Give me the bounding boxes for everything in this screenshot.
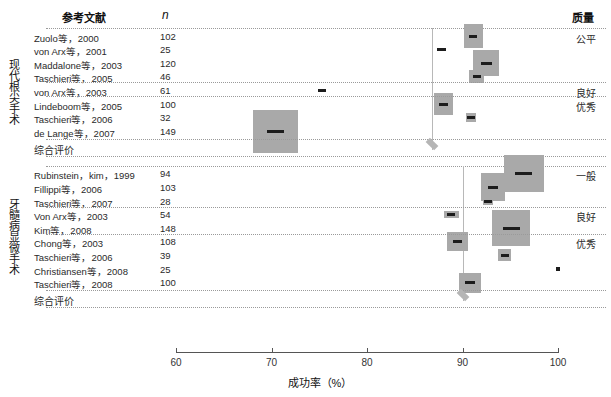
quality-label: 优秀 — [576, 99, 596, 114]
quality-label: 一般 — [576, 168, 596, 183]
effect-size-marker — [267, 130, 284, 133]
summary-label: 综合评价 — [34, 142, 74, 157]
study-label: Lindeboom等，2005 — [34, 99, 122, 113]
x-axis-tick-label: 60 — [158, 357, 194, 368]
group-bottom-rule — [46, 307, 606, 308]
study-sample-size: 25 — [160, 264, 171, 275]
forest-plot: 参考文献n质量Zuolo等，2000102公平von Arx等，200125Ma… — [0, 0, 611, 397]
column-header-quality: 质量 — [572, 9, 594, 25]
quality-label: 良好 — [576, 209, 596, 224]
effect-size-marker — [465, 281, 475, 284]
effect-size-marker — [484, 200, 492, 203]
study-label: Zuolo等，2000 — [34, 31, 99, 45]
x-axis-tick-label: 90 — [445, 357, 481, 368]
summary-rule — [46, 139, 606, 140]
section-rule — [46, 82, 606, 83]
study-label: Taschieri等，2006 — [34, 112, 113, 126]
quality-label: 公平 — [576, 31, 596, 46]
x-axis-tick — [272, 348, 273, 353]
effect-size-marker — [469, 35, 478, 38]
effect-size-marker — [318, 89, 326, 92]
study-sample-size: 25 — [160, 44, 171, 55]
effect-size-marker — [467, 116, 475, 119]
effect-size-marker — [439, 103, 448, 106]
study-label: Chong等，2003 — [34, 236, 103, 250]
column-header-reference: 参考文献 — [62, 9, 106, 25]
study-sample-size: 94 — [160, 168, 171, 179]
study-sample-size: 108 — [160, 236, 176, 247]
summary-label: 综合评价 — [34, 293, 74, 308]
x-axis-tick-label: 100 — [540, 357, 576, 368]
study-label: Maddalone等，2003 — [34, 58, 122, 72]
x-axis-tick — [176, 348, 177, 353]
x-axis-tick-label: 80 — [349, 357, 385, 368]
x-axis-tick — [367, 348, 368, 353]
study-sample-size: 100 — [160, 99, 176, 110]
effect-size-point — [556, 267, 560, 271]
effect-size-marker — [481, 62, 493, 65]
study-sample-size: 54 — [160, 209, 171, 220]
study-sample-size: 100 — [160, 277, 176, 288]
study-label: Taschieri等，2006 — [34, 250, 113, 264]
pooled-reference-line — [432, 28, 433, 150]
section-rule — [46, 234, 606, 235]
effect-size-marker — [503, 227, 520, 230]
study-label: de Lange等，2007 — [34, 126, 115, 140]
study-sample-size: 39 — [160, 250, 171, 261]
summary-rule — [46, 290, 606, 291]
quality-label: 优秀 — [576, 236, 596, 251]
study-label: Christiansen等，2008 — [34, 264, 128, 278]
study-sample-size: 149 — [160, 126, 176, 137]
study-label: Taschieri等，2008 — [34, 277, 113, 291]
x-axis-tick-label: 70 — [254, 357, 290, 368]
study-sample-size: 46 — [160, 71, 171, 82]
effect-size-marker — [453, 240, 462, 243]
study-sample-size: 148 — [160, 223, 176, 234]
x-axis-title: 成功率（%） — [288, 374, 353, 390]
section-rule — [46, 207, 606, 208]
study-sample-size: 103 — [160, 182, 176, 193]
group-axis-label: 牙髓病显微手术 — [6, 166, 22, 307]
study-sample-size: 102 — [160, 31, 176, 42]
effect-size-marker — [488, 186, 499, 189]
group-axis-label: 现代根尖手术 — [6, 28, 22, 156]
effect-size-marker — [473, 75, 481, 78]
x-axis-tick — [558, 348, 559, 353]
effect-size-marker — [437, 48, 445, 51]
effect-size-marker — [515, 172, 532, 175]
effect-size-marker — [501, 254, 509, 257]
study-label: von Arx等，2001 — [34, 44, 107, 58]
study-label: Rubinstein，kim，1999 — [34, 168, 135, 182]
group-top-rule — [46, 28, 606, 29]
x-axis-tick — [463, 348, 464, 353]
effect-size-marker — [447, 213, 455, 216]
study-sample-size: 61 — [160, 85, 171, 96]
column-header-n: n — [162, 8, 169, 22]
study-sample-size: 32 — [160, 112, 171, 123]
study-sample-size: 28 — [160, 196, 171, 207]
study-sample-size: 120 — [160, 58, 176, 69]
study-label: Fillippi等，2006 — [34, 182, 102, 196]
section-rule — [46, 96, 606, 97]
study-label: Von Arx等，2003 — [34, 209, 108, 223]
